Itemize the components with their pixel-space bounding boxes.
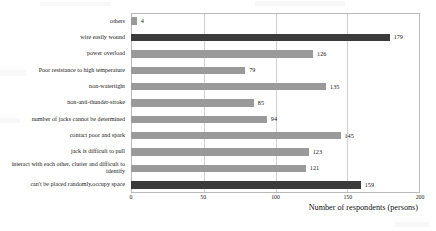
- y-tick-label: number of jacks cannot be determined: [0, 111, 128, 127]
- y-tick-text: others: [110, 18, 125, 25]
- bar-row: 123: [131, 144, 420, 160]
- bar[interactable]: [131, 132, 341, 140]
- bar-chart: others wire easily wound power overload …: [0, 0, 436, 231]
- bar-value-label: 135: [330, 84, 339, 90]
- bar-row: 4: [131, 13, 420, 29]
- bar-row: 94: [131, 111, 420, 127]
- bar[interactable]: [131, 17, 137, 25]
- bar-row: 126: [131, 46, 420, 62]
- y-tick-label: contact poor and spark: [0, 128, 128, 144]
- y-axis-labels: others wire easily wound power overload …: [0, 13, 128, 193]
- y-tick-text: interact with each other, clutter and di…: [0, 161, 125, 175]
- y-tick-label: others: [0, 13, 128, 29]
- bar[interactable]: [131, 165, 306, 173]
- y-tick-label: non-watertight: [0, 78, 128, 94]
- bar-value-label: 79: [249, 67, 255, 73]
- bar-series: 4 179 126 79 135 85 94 145 123 121 159: [131, 13, 420, 193]
- y-tick-label: jack is difficult to pull: [0, 144, 128, 160]
- bar[interactable]: [131, 67, 245, 75]
- bar-row: 85: [131, 95, 420, 111]
- x-tick-label: 100: [271, 194, 280, 200]
- scan-artifact: [395, 222, 429, 227]
- y-tick-text: non-watertight: [89, 83, 125, 90]
- bar-row: 135: [131, 78, 420, 94]
- bar[interactable]: [131, 83, 326, 91]
- bar-row: 79: [131, 62, 420, 78]
- x-tick-label: 50: [200, 194, 206, 200]
- bar-row: 179: [131, 29, 420, 45]
- y-tick-label: power overload: [0, 46, 128, 62]
- y-tick-text: non-anti-thunder-stroke: [67, 99, 125, 106]
- bar-value-label: 145: [345, 133, 354, 139]
- y-tick-text: wire easily wound: [80, 34, 125, 41]
- x-tick-label: 0: [130, 194, 133, 200]
- y-tick-label: interact with each other, clutter and di…: [0, 160, 128, 176]
- y-tick-text: jack is difficult to pull: [71, 148, 125, 155]
- bar[interactable]: [131, 116, 267, 124]
- x-tick-label: 150: [343, 194, 352, 200]
- bar-value-label: 4: [141, 18, 144, 24]
- bar[interactable]: [131, 99, 254, 107]
- bar-value-label: 94: [271, 116, 277, 122]
- bar-value-label: 123: [313, 149, 322, 155]
- y-tick-label: wire easily wound: [0, 29, 128, 45]
- y-tick-label: can't be placed randomly,occupy space: [0, 177, 128, 193]
- x-axis-title: Number of respondents (persons): [131, 203, 420, 212]
- bar[interactable]: [131, 181, 361, 189]
- bar-value-label: 159: [365, 182, 374, 188]
- y-tick-label: non-anti-thunder-stroke: [0, 95, 128, 111]
- bar-value-label: 179: [394, 34, 403, 40]
- y-tick-text: Poor resistance to high temperature: [39, 67, 125, 74]
- bar-row: 121: [131, 160, 420, 176]
- bar[interactable]: [131, 50, 313, 58]
- bar[interactable]: [131, 34, 390, 42]
- bar-row: 145: [131, 128, 420, 144]
- bar-value-label: 126: [317, 51, 326, 57]
- scan-artifact: [255, 1, 345, 6]
- bar[interactable]: [131, 148, 309, 156]
- y-tick-text: number of jacks cannot be determined: [32, 116, 125, 123]
- scan-artifact: [40, 2, 110, 6]
- bar-value-label: 121: [310, 165, 319, 171]
- bar-value-label: 85: [258, 100, 264, 106]
- y-tick-text: contact poor and spark: [70, 132, 125, 139]
- bar-row: 159: [131, 177, 420, 193]
- y-tick-text: power overload: [87, 50, 125, 57]
- y-tick-text: can't be placed randomly,occupy space: [30, 181, 125, 188]
- y-tick-label: Poor resistance to high temperature: [0, 62, 128, 78]
- x-tick-label: 200: [416, 194, 425, 200]
